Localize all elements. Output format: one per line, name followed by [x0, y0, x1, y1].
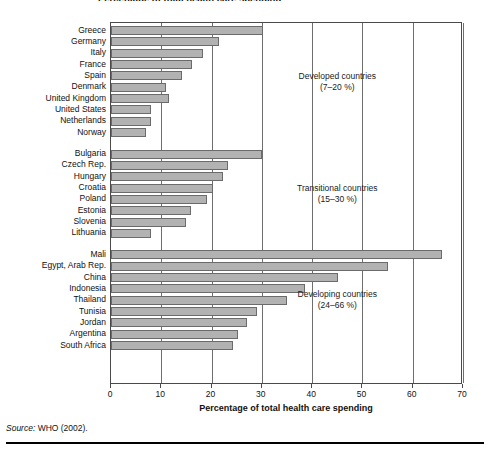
bar — [111, 195, 207, 204]
bar-row — [111, 117, 463, 126]
source-value: WHO (2002). — [35, 423, 87, 433]
x-axis-tick-labels: 010203040506070 — [110, 389, 462, 401]
group-annotation-range: (15–30 %) — [297, 194, 377, 205]
bar — [111, 218, 186, 227]
x-axis-tick — [311, 384, 312, 388]
category-label: Poland — [0, 194, 106, 203]
x-axis-tick-label: 60 — [407, 389, 416, 399]
group-annotation-range: (7–20 %) — [299, 82, 377, 93]
x-axis-tick-label: 50 — [357, 389, 366, 399]
bar — [111, 206, 191, 215]
x-axis-tick — [412, 384, 413, 388]
group-annotation: Developing countries(24–66 %) — [298, 289, 377, 311]
chart-title: Percentage of total health care spending — [98, 0, 281, 1]
bar-row — [111, 172, 463, 181]
x-axis-ticks — [110, 384, 462, 388]
bar-row — [111, 273, 463, 282]
bar-row — [111, 250, 463, 259]
x-axis-tick — [462, 384, 463, 388]
bar — [111, 172, 223, 181]
bar-row — [111, 60, 463, 69]
category-label: United States — [0, 105, 106, 114]
group-annotation: Transitional countries(15–30 %) — [297, 183, 377, 205]
bottom-rule — [6, 442, 484, 444]
bar — [111, 296, 287, 305]
category-label: Norway — [0, 128, 106, 137]
bar-row — [111, 218, 463, 227]
x-axis-tick — [160, 384, 161, 388]
category-label: France — [0, 60, 106, 69]
bar — [111, 150, 262, 159]
x-axis-tick — [110, 384, 111, 388]
category-label: Greece — [0, 26, 106, 35]
category-label: Germany — [0, 37, 106, 46]
x-axis-tick-label: 0 — [108, 389, 113, 399]
bar — [111, 105, 151, 114]
bar-row — [111, 128, 463, 137]
bar-row — [111, 330, 463, 339]
category-label: Thailand — [0, 295, 106, 304]
x-axis-title: Percentage of total health care spending — [110, 403, 462, 413]
bar — [111, 26, 263, 35]
category-label: Slovenia — [0, 217, 106, 226]
bar — [111, 307, 257, 316]
bar-row — [111, 296, 463, 305]
group-annotation-title: Transitional countries — [297, 183, 377, 194]
category-label: Egypt, Arab Rep. — [0, 261, 106, 270]
bar-row — [111, 341, 463, 350]
bar-row — [111, 206, 463, 215]
category-label: Czech Rep. — [0, 160, 106, 169]
bar — [111, 49, 203, 58]
bar-rows — [111, 23, 461, 383]
bar-row — [111, 284, 463, 293]
bar — [111, 60, 192, 69]
bar — [111, 250, 442, 259]
x-axis-tick — [211, 384, 212, 388]
group-annotation-range: (24–66 %) — [298, 300, 377, 311]
category-label: South Africa — [0, 341, 106, 350]
bar — [111, 83, 166, 92]
bar-row — [111, 26, 463, 35]
gridline — [463, 23, 464, 383]
x-axis-tick-label: 20 — [206, 389, 215, 399]
category-label: Spain — [0, 71, 106, 80]
bar — [111, 262, 388, 271]
bar — [111, 117, 151, 126]
bar — [111, 184, 213, 193]
bar-row — [111, 150, 463, 159]
bar — [111, 71, 182, 80]
bar — [111, 330, 238, 339]
bar-row — [111, 37, 463, 46]
bar — [111, 37, 219, 46]
category-label: Estonia — [0, 206, 106, 215]
source-label: Source: — [6, 423, 35, 433]
bar-row — [111, 105, 463, 114]
group-annotation-title: Developing countries — [298, 289, 377, 300]
bar-row — [111, 161, 463, 170]
category-label: China — [0, 273, 106, 282]
category-label: Bulgaria — [0, 149, 106, 158]
bar-row — [111, 262, 463, 271]
bar — [111, 273, 338, 282]
bar-row — [111, 229, 463, 238]
category-label: Mali — [0, 250, 106, 259]
group-annotation: Developed countries(7–20 %) — [299, 71, 377, 93]
bar-row — [111, 184, 463, 193]
bar-row — [111, 71, 463, 80]
category-label: Tunisia — [0, 307, 106, 316]
category-label: Argentina — [0, 329, 106, 338]
category-label: United Kingdom — [0, 94, 106, 103]
x-axis-tick — [361, 384, 362, 388]
x-axis-tick-label: 70 — [457, 389, 466, 399]
category-label: Lithuania — [0, 228, 106, 237]
category-label: Italy — [0, 48, 106, 57]
x-axis-tick-label: 30 — [256, 389, 265, 399]
bar — [111, 161, 228, 170]
bar — [111, 128, 146, 137]
x-axis-tick-label: 40 — [306, 389, 315, 399]
source-note: Source: WHO (2002). — [6, 423, 88, 433]
bar-row — [111, 83, 463, 92]
category-label: Croatia — [0, 183, 106, 192]
category-label: Netherlands — [0, 116, 106, 125]
plot-area: Developed countries(7–20 %)Transitional … — [110, 22, 462, 384]
